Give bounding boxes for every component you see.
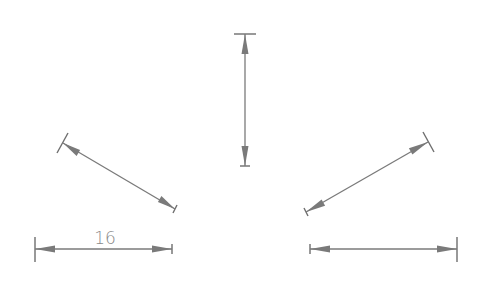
arrowhead-icon	[409, 142, 428, 154]
extension-tick	[57, 133, 68, 153]
dimension-bottom-right-horizontal	[310, 237, 457, 262]
arrowhead-icon	[310, 246, 330, 253]
dimension-label: 16	[94, 228, 116, 248]
dimension-right-diagonal	[304, 132, 434, 216]
extension-tick	[423, 132, 434, 152]
dimension-line	[306, 142, 428, 212]
dimension-diagram: 16	[0, 0, 484, 285]
dimension-bottom-left-horizontal: 16	[35, 228, 172, 262]
arrowhead-icon	[35, 246, 55, 253]
dimension-top-vertical	[234, 34, 256, 166]
arrowhead-icon	[242, 34, 249, 54]
arrowhead-icon	[152, 246, 172, 253]
arrowhead-icon	[306, 200, 325, 212]
dimension-line	[63, 143, 175, 209]
arrowhead-icon	[63, 143, 80, 156]
arrowhead-icon	[158, 196, 175, 209]
dimension-left-diagonal	[57, 133, 177, 213]
arrowhead-icon	[437, 246, 457, 253]
arrowhead-icon	[242, 146, 249, 166]
